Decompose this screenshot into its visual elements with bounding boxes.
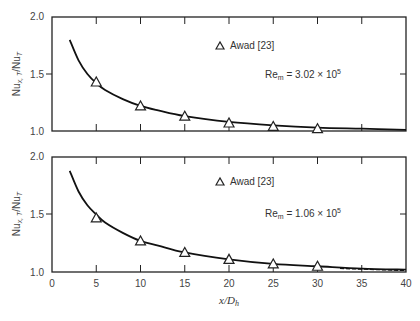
x-tick-label: 30 [312, 278, 324, 289]
triangle-marker-icon [91, 77, 101, 86]
triangle-marker-icon [216, 42, 224, 49]
x-tick-label: 35 [356, 278, 368, 289]
top-ytick-1-0: 1.0 [30, 126, 44, 137]
x-tick-label: 0 [49, 278, 55, 289]
bottom-ytick-2-0: 2.0 [30, 151, 44, 162]
x-tick-label: 40 [400, 278, 412, 289]
top-plot-frame [52, 17, 406, 131]
x-tick-label: 15 [179, 278, 191, 289]
top-theory-curve [70, 40, 406, 130]
top-ytick-2-0: 2.0 [30, 11, 44, 22]
bottom-legend-label: Awad [23] [230, 176, 275, 187]
bottom-ytick-1-5: 1.5 [30, 209, 44, 220]
triangle-marker-icon [216, 178, 224, 185]
bottom-y-axis-label: Nux, T/NuT [11, 191, 23, 236]
chart-figure: 2.0 1.5 1.0 Awad [23] Rem = 3.02 × 105 N… [0, 0, 420, 321]
x-tick-label: 20 [223, 278, 235, 289]
bottom-reynolds-annotation: Rem = 1.06 × 105 [265, 207, 341, 220]
x-axis-label: x/Dh [218, 294, 239, 308]
top-reynolds-annotation: Rem = 3.02 × 105 [265, 68, 341, 81]
top-data-markers [91, 77, 322, 133]
x-tick-labels: 0510152025303540 [49, 278, 412, 289]
top-legend: Awad [23] [216, 40, 275, 51]
top-panel: 2.0 1.5 1.0 Awad [23] Rem = 3.02 × 105 N… [11, 11, 406, 137]
bottom-ytick-1-0: 1.0 [30, 267, 44, 278]
x-tick-label: 25 [268, 278, 280, 289]
top-legend-label: Awad [23] [230, 40, 275, 51]
x-tick-label: 10 [135, 278, 147, 289]
bottom-panel: 2.0 1.5 1.0 Awad [23] Rem = 1.06 × 105 N… [11, 151, 412, 308]
bottom-data-markers [91, 213, 322, 270]
bottom-legend: Awad [23] [216, 176, 275, 187]
x-tick-label: 5 [93, 278, 99, 289]
top-ytick-1-5: 1.5 [30, 69, 44, 80]
top-y-axis-label: Nux, T/NuT [11, 51, 23, 96]
